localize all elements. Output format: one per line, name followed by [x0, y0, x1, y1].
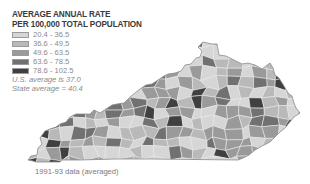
county — [298, 47, 310, 58]
county — [309, 38, 310, 50]
legend-class: 63.6 - 78.5 — [12, 57, 142, 66]
county — [189, 55, 203, 66]
county — [227, 38, 241, 51]
legend-class-label: 78.6 - 102.5 — [33, 66, 74, 75]
county — [241, 48, 254, 57]
source-note: 1991-93 data (averaged) — [35, 167, 119, 176]
county — [261, 48, 279, 59]
county — [143, 38, 158, 48]
county — [309, 148, 310, 156]
county — [261, 146, 278, 158]
county — [60, 140, 71, 147]
county — [93, 136, 107, 147]
county — [144, 56, 160, 70]
county — [273, 58, 291, 70]
county — [59, 117, 74, 127]
county — [166, 116, 183, 127]
legend-swatch — [12, 68, 29, 74]
county — [24, 116, 35, 131]
county — [179, 38, 193, 50]
legend-swatch — [12, 41, 29, 47]
county — [45, 139, 61, 148]
legend-class-label: 63.6 - 78.5 — [33, 57, 69, 66]
county — [286, 77, 301, 90]
county — [105, 147, 120, 160]
county — [83, 98, 98, 111]
county — [274, 38, 288, 48]
county — [191, 166, 206, 178]
legend-class: 20.4 - 36.5 — [12, 30, 142, 39]
county — [216, 68, 227, 76]
county — [238, 38, 253, 51]
legend-swatch — [12, 50, 29, 56]
county — [309, 57, 310, 70]
county — [24, 135, 38, 151]
county — [242, 166, 255, 178]
county — [297, 121, 310, 129]
county — [24, 105, 36, 117]
county — [288, 47, 299, 60]
state-average-note: State average = 40.4 — [12, 85, 142, 94]
county — [144, 46, 160, 57]
county — [156, 166, 165, 178]
legend-title-line2: PER 100,000 TOTAL POPULATION — [12, 20, 142, 30]
county — [273, 47, 291, 60]
county — [275, 158, 288, 170]
legend-class: 36.6 - 49.5 — [12, 39, 142, 48]
county — [35, 108, 50, 118]
county — [71, 108, 86, 118]
legend-classes: 20.4 - 36.5 36.6 - 49.5 49.6 - 63.5 63.6… — [12, 30, 142, 75]
county — [216, 167, 231, 178]
county — [166, 49, 180, 59]
legend-class: 78.6 - 102.5 — [12, 66, 142, 75]
legend-class-label: 36.6 - 49.5 — [33, 39, 69, 48]
county — [36, 97, 49, 109]
county — [24, 127, 36, 136]
county — [309, 156, 310, 167]
county — [157, 58, 171, 67]
county — [299, 156, 310, 167]
county — [35, 117, 50, 131]
county — [45, 106, 61, 121]
county — [179, 46, 194, 61]
county — [225, 169, 243, 178]
county — [106, 138, 122, 147]
county — [143, 166, 159, 178]
county — [71, 96, 86, 111]
county — [154, 38, 169, 49]
legend-class: 49.6 - 63.5 — [12, 48, 142, 57]
county — [225, 129, 244, 140]
county — [129, 168, 145, 178]
county — [166, 38, 181, 50]
county — [166, 168, 183, 178]
county — [169, 145, 182, 159]
county — [299, 147, 310, 157]
county — [285, 126, 302, 140]
county — [253, 156, 266, 166]
county — [264, 38, 278, 48]
county — [143, 67, 159, 79]
county — [275, 68, 289, 80]
county — [251, 38, 264, 48]
county — [298, 38, 310, 49]
legend: AVERAGE ANNUAL RATE PER 100,000 TOTAL PO… — [12, 10, 142, 93]
county — [237, 156, 255, 169]
county — [255, 165, 266, 178]
county — [287, 167, 301, 178]
legend-swatch — [12, 59, 29, 65]
county — [287, 98, 298, 105]
county — [299, 68, 310, 80]
legend-swatch — [12, 32, 29, 38]
legend-class-label: 49.6 - 63.5 — [33, 48, 69, 57]
county — [277, 146, 290, 159]
county — [179, 170, 193, 178]
legend-title-line1: AVERAGE ANNUAL RATE — [12, 10, 142, 20]
county — [267, 79, 275, 87]
legend-class-label: 20.4 - 36.5 — [33, 30, 69, 39]
county — [298, 98, 310, 106]
county — [287, 157, 301, 170]
county — [117, 168, 134, 178]
county — [298, 87, 310, 99]
county — [167, 56, 183, 66]
county — [309, 116, 310, 127]
